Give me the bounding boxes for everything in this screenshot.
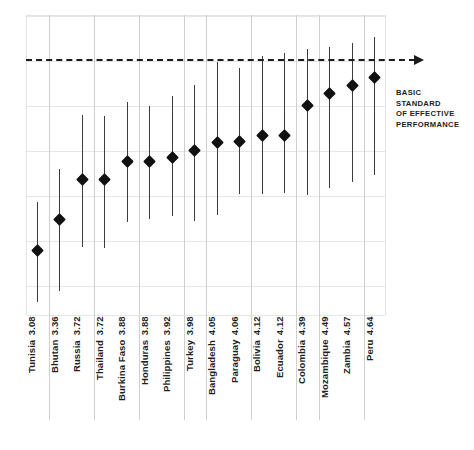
data-marker[interactable] <box>323 88 336 101</box>
x-axis-label: Bangladesh 4.05 <box>206 316 229 440</box>
x-axis-label-country: Mozambique <box>319 340 330 399</box>
x-axis-label-value: 4.49 <box>319 316 330 340</box>
data-marker[interactable] <box>256 129 269 142</box>
error-bar <box>352 43 353 182</box>
reference-arrow-icon <box>414 55 424 65</box>
error-bar <box>329 47 330 188</box>
x-axis-label-country: Colombia <box>296 340 307 384</box>
x-axis-label: Colombia 4.39 <box>296 316 319 440</box>
x-axis-label-country: Burkina Faso <box>116 340 127 401</box>
x-axis-label: Bhutan 3.36 <box>49 316 72 440</box>
x-axis-label-country: Bhutan <box>49 340 60 373</box>
x-axis-label-country: Turkey <box>184 340 195 371</box>
x-axis-label: Paraguay 4.06 <box>229 316 252 440</box>
x-axis-label-country: Honduras <box>139 340 150 385</box>
x-axis-label-value: 3.92 <box>161 316 172 340</box>
data-marker[interactable] <box>346 79 359 92</box>
basic-standard-reference-line <box>26 59 415 61</box>
x-axis-label-country: Ecuador <box>274 340 285 379</box>
x-axis-label-value: 4.39 <box>296 316 307 340</box>
x-axis-label-country: Peru <box>364 340 375 362</box>
annotation-line: BASIC <box>396 88 472 99</box>
data-marker[interactable] <box>278 129 291 142</box>
x-axis-label: Zambia 4.57 <box>341 316 364 440</box>
data-marker[interactable] <box>368 71 381 84</box>
error-bar <box>59 169 60 290</box>
data-marker[interactable] <box>211 136 224 149</box>
x-axis-label: Burkina Faso 3.88 <box>116 316 139 440</box>
x-axis-label-country: Thailand <box>94 340 105 380</box>
error-bar <box>374 37 375 175</box>
x-axis-label: Peru 4.64 <box>364 316 387 440</box>
x-axis-label-value: 3.88 <box>116 316 127 340</box>
x-axis-label-country: Philippines <box>161 340 172 392</box>
error-bar <box>284 53 285 193</box>
x-axis-label-country: Zambia <box>341 340 352 374</box>
x-axis-label-value: 4.12 <box>274 316 285 340</box>
x-axis-label: Honduras 3.88 <box>139 316 162 440</box>
x-axis-label: Ecuador 4.12 <box>274 316 297 440</box>
x-axis-label-value: 4.64 <box>364 316 375 340</box>
x-axis-label-country: Paraguay <box>229 340 240 384</box>
x-axis-label-value: 4.12 <box>251 316 262 340</box>
annotation-line: PERFORMANCE <box>396 120 472 131</box>
data-marker[interactable] <box>98 173 111 186</box>
x-axis-labels: Tunisia 3.08Bhutan 3.36Russia 3.72Thaila… <box>26 316 386 442</box>
x-axis-label-value: 3.98 <box>184 316 195 340</box>
x-axis-label: Philippines 3.92 <box>161 316 184 440</box>
x-axis-label-country: Bangladesh <box>206 340 217 395</box>
data-marker[interactable] <box>188 144 201 157</box>
error-bar <box>307 49 308 195</box>
x-axis-label: Tunisia 3.08 <box>26 316 49 440</box>
x-axis-label: Mozambique 4.49 <box>319 316 342 440</box>
x-axis-label-value: 3.36 <box>49 316 60 340</box>
x-axis-label-value: 4.57 <box>341 316 352 340</box>
x-axis-label: Russia 3.72 <box>71 316 94 440</box>
x-axis-label: Bolivia 4.12 <box>251 316 274 440</box>
error-bar <box>262 56 263 194</box>
data-marker[interactable] <box>233 135 246 148</box>
data-marker[interactable] <box>166 151 179 164</box>
x-axis-label-value: 3.08 <box>26 316 37 340</box>
data-marker[interactable] <box>76 173 89 186</box>
x-axis-label-country: Tunisia <box>26 340 37 373</box>
error-bar <box>239 68 240 194</box>
x-axis-label-country: Bolivia <box>251 340 262 372</box>
annotation-line: STANDARD <box>396 99 472 110</box>
x-axis-label-value: 3.88 <box>139 316 150 340</box>
data-marker[interactable] <box>143 155 156 168</box>
data-marker[interactable] <box>53 213 66 226</box>
data-marker[interactable] <box>31 244 44 257</box>
x-axis-label-value: 3.72 <box>94 316 105 340</box>
x-axis-label: Thailand 3.72 <box>94 316 117 440</box>
x-axis-label: Turkey 3.98 <box>184 316 207 440</box>
data-marker[interactable] <box>301 99 314 112</box>
chart-figure: BASICSTANDARDOF EFFECTIVEPERFORMANCE Tun… <box>0 0 474 450</box>
x-axis-label-value: 4.05 <box>206 316 217 340</box>
annotation-line: OF EFFECTIVE <box>396 109 472 120</box>
x-axis-label-value: 4.06 <box>229 316 240 340</box>
data-marker[interactable] <box>121 155 134 168</box>
x-axis-label-value: 3.72 <box>71 316 82 340</box>
basic-standard-annotation: BASICSTANDARDOF EFFECTIVEPERFORMANCE <box>396 88 472 130</box>
x-axis-label-country: Russia <box>71 340 82 372</box>
